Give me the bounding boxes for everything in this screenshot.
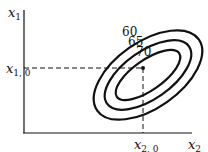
x-axis-label: x2 [188, 138, 201, 152]
contour-65 [93, 27, 202, 124]
optimum-point [141, 66, 145, 70]
contour-diagram [0, 0, 208, 152]
contour-label-70: 70 [136, 46, 151, 58]
y-axis-label: x1 [8, 6, 21, 22]
y0-label: x1, 0 [6, 62, 31, 78]
x0-label: x2, 0 [134, 138, 159, 152]
